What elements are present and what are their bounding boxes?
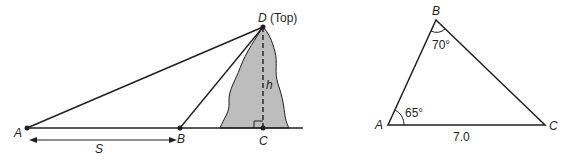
point-D — [261, 25, 266, 30]
label-top: (Top) — [270, 11, 297, 25]
label-C: C — [259, 134, 268, 148]
label-A: A — [13, 126, 22, 140]
mountain-figure: A B C D (Top) S h — [13, 11, 303, 156]
label-S: S — [95, 142, 103, 156]
vertex-label-A: A — [374, 118, 383, 132]
point-C — [261, 126, 266, 131]
angle-label-B: 70° — [432, 38, 450, 52]
angle-arc-B — [431, 29, 445, 32]
label-h: h — [266, 78, 273, 92]
label-B: B — [177, 132, 185, 146]
point-B — [178, 126, 183, 131]
side-label-AC: 7.0 — [453, 130, 470, 144]
vertex-label-B: B — [432, 4, 440, 18]
arrowhead-left-icon — [29, 137, 37, 143]
angle-label-A: 65° — [405, 106, 423, 120]
angle-arc-A — [395, 110, 404, 125]
arrowhead-right-icon — [169, 137, 177, 143]
point-A — [25, 126, 30, 131]
mountain-shape — [220, 27, 289, 128]
diagram-canvas: A B C D (Top) S h A B C 65° 70° 7.0 — [0, 0, 570, 163]
vertex-label-C: C — [549, 119, 558, 133]
triangle-figure: A B C 65° 70° 7.0 — [374, 4, 558, 144]
label-D: D — [258, 11, 267, 25]
